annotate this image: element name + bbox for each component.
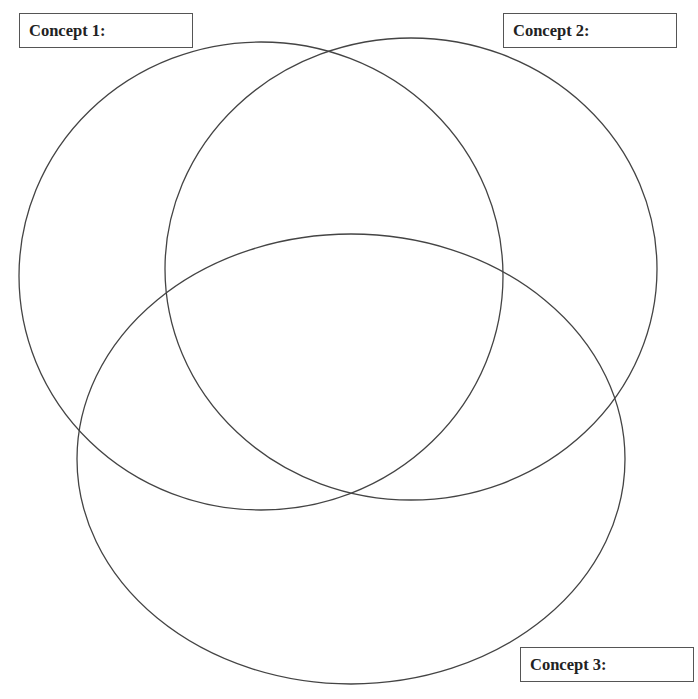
concept-2-label-box[interactable]: Concept 2: — [503, 13, 677, 48]
concept-3-circle — [77, 234, 625, 684]
concept-2-label: Concept 2: — [513, 21, 590, 41]
concept-2-circle — [165, 38, 657, 500]
concept-1-label: Concept 1: — [29, 21, 106, 41]
concept-1-label-box[interactable]: Concept 1: — [19, 13, 193, 48]
concept-3-label-box[interactable]: Concept 3: — [520, 647, 694, 682]
concept-3-label: Concept 3: — [530, 655, 607, 675]
concept-1-circle — [19, 42, 503, 510]
venn-diagram — [0, 0, 698, 699]
